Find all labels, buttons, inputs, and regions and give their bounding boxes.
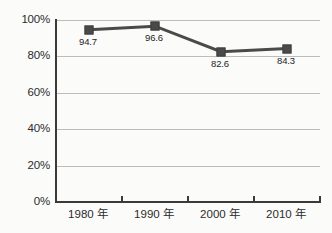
x-tick-4 bbox=[319, 196, 321, 202]
line-chart: 100% 80% 60% 40% 20% 0% 1980 年 1990 年 20… bbox=[0, 0, 332, 233]
data-point-marker bbox=[151, 22, 160, 31]
data-point-label: 82.6 bbox=[211, 58, 229, 69]
gridline-100 bbox=[56, 20, 320, 21]
y-tick-label-20: 20% bbox=[0, 159, 50, 171]
gridline-40 bbox=[56, 129, 320, 130]
x-tick-label-1980: 1980 年 bbox=[55, 205, 121, 221]
x-tick-label-1990: 1990 年 bbox=[121, 205, 187, 221]
data-point-label: 84.3 bbox=[277, 55, 295, 66]
data-point-label: 94.7 bbox=[79, 36, 97, 47]
plot-area bbox=[56, 20, 320, 202]
data-point-label: 96.6 bbox=[145, 32, 163, 43]
x-tick-1 bbox=[121, 196, 123, 202]
x-tick-3 bbox=[253, 196, 255, 202]
gridline-20 bbox=[56, 166, 320, 167]
data-point-marker bbox=[85, 25, 94, 34]
x-tick-label-2000: 2000 年 bbox=[187, 205, 253, 221]
y-tick-label-100: 100% bbox=[0, 13, 50, 25]
y-axis-line bbox=[55, 19, 57, 203]
gridline-60 bbox=[56, 93, 320, 94]
y-tick-label-0: 0% bbox=[0, 195, 50, 207]
data-point-marker bbox=[217, 47, 226, 56]
x-tick-label-2010: 2010 年 bbox=[253, 205, 319, 221]
data-point-marker bbox=[283, 44, 292, 53]
y-tick-label-80: 80% bbox=[0, 49, 50, 61]
y-tick-label-40: 40% bbox=[0, 122, 50, 134]
y-tick-label-60: 60% bbox=[0, 86, 50, 98]
x-tick-0 bbox=[55, 196, 57, 202]
x-tick-2 bbox=[187, 196, 189, 202]
